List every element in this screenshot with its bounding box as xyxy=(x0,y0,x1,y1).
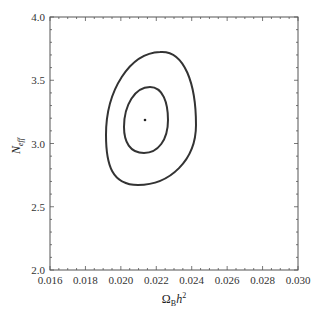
contour-plot: 0.016 0.018 0.020 0.022 0.024 0.026 0.02… xyxy=(0,0,319,322)
y-axis-label: Neff xyxy=(9,136,25,155)
y-tick-label: 3.5 xyxy=(31,74,45,86)
y-tick-label: 2.5 xyxy=(31,201,45,213)
best-fit-point xyxy=(144,119,147,122)
x-tick-label: 0.018 xyxy=(73,274,98,286)
x-tick-label: 0.026 xyxy=(215,274,240,286)
x-tick-label: 0.022 xyxy=(144,274,169,286)
y-tick-labels: 2.0 2.5 3.0 3.5 4.0 xyxy=(31,11,45,276)
x-tick-label: 0.030 xyxy=(286,274,311,286)
y-tick-label: 4.0 xyxy=(31,11,45,23)
outer-contour xyxy=(106,52,196,185)
x-tick-labels: 0.016 0.018 0.020 0.022 0.024 0.026 0.02… xyxy=(38,274,311,286)
x-tick-label: 0.024 xyxy=(179,274,204,286)
x-axis-label: ΩBh2 xyxy=(162,291,186,308)
y-tick-label: 3.0 xyxy=(31,138,45,150)
x-tick-label: 0.020 xyxy=(109,274,134,286)
y-tick-label: 2.0 xyxy=(31,264,45,276)
x-tick-label: 0.028 xyxy=(250,274,275,286)
